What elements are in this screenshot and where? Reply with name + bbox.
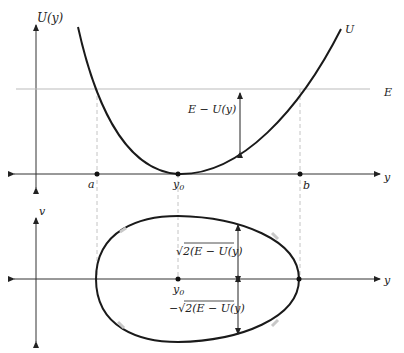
orbit-highlight (272, 320, 278, 326)
bottom-plot: v y y0 √2(E − U(y) −√2(E − U(y) (14, 205, 391, 342)
center-label: y0 (172, 283, 184, 297)
phase-diagram: U(y) U E E − U(y) y a y0 b v y y0 √2(E −… (0, 0, 404, 353)
y-axis-label-bottom: y (383, 274, 391, 287)
label-y0: y0 (172, 178, 184, 192)
potential-curve (78, 27, 341, 174)
point-a (95, 172, 100, 177)
point-y0 (176, 172, 181, 177)
point-b (298, 172, 303, 177)
energy-label: E (383, 86, 392, 99)
lower-label: −√2(E − U(y) (169, 302, 245, 315)
point-right (297, 277, 302, 282)
v-axis-label: v (39, 205, 46, 218)
y-axis-label-top: y (383, 171, 391, 184)
orbit-highlight (120, 228, 126, 232)
upper-label: √2(E − U(y) (176, 245, 243, 258)
u-axis-label: U(y) (37, 11, 64, 25)
curve-label: U (345, 23, 355, 36)
label-a: a (88, 178, 95, 191)
label-b: b (303, 179, 310, 192)
top-plot: U(y) U E E − U(y) y a y0 b (14, 11, 392, 280)
orbit-highlight (272, 233, 278, 239)
point-center (176, 277, 181, 282)
gap-label: E − U(y) (187, 103, 236, 116)
